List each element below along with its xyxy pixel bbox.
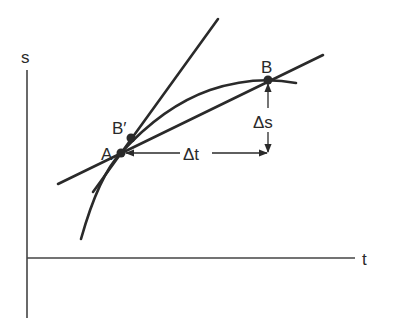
- label-B: B: [261, 58, 272, 77]
- point-A: [117, 149, 126, 158]
- tangent-line: [93, 19, 218, 192]
- delta-t-label: Δt: [183, 145, 199, 164]
- y-axis-label: s: [21, 48, 30, 67]
- point-B-prime: [127, 134, 136, 143]
- x-axis-label: t: [362, 250, 367, 269]
- label-B-prime: B′: [112, 119, 127, 138]
- secant-line: [58, 55, 323, 184]
- delta-s-label: Δs: [253, 113, 273, 132]
- label-A: A: [101, 145, 113, 164]
- secant-tangent-diagram: s t A B′ B Δt Δs: [0, 0, 399, 329]
